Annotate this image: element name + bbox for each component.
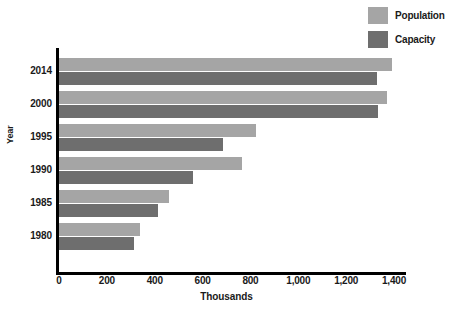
y-tick-1980: 1980: [30, 231, 52, 241]
bar-population-1995: [59, 124, 256, 137]
x-tick-1400: 1,400: [382, 276, 406, 286]
legend-item-population: Population: [368, 7, 445, 24]
bar-capacity-1985: [59, 204, 158, 217]
bar-population-2000: [59, 91, 387, 104]
bar-population-1980: [59, 223, 140, 236]
bar-capacity-2000: [59, 105, 378, 118]
bar-capacity-2014: [59, 72, 377, 85]
legend-label-capacity: Capacity: [395, 35, 435, 45]
x-tick-600: 600: [195, 276, 211, 286]
x-tick-400: 400: [147, 276, 163, 286]
legend-label-population: Population: [395, 11, 445, 21]
x-tick-1200: 1,200: [334, 276, 358, 286]
bar-capacity-1980: [59, 237, 134, 250]
bar-population-1985: [59, 190, 169, 203]
bar-chart: Population Capacity Year 201420001995199…: [0, 0, 453, 313]
x-axis-title: Thousands: [0, 292, 453, 302]
x-tick-800: 800: [242, 276, 258, 286]
x-tick-0: 0: [56, 276, 61, 286]
y-tick-1985: 1985: [30, 198, 52, 208]
x-axis-tick-labels: 02004006008001,0001,2001,400: [59, 276, 406, 290]
bar-population-2014: [59, 58, 392, 71]
y-tick-2000: 2000: [30, 99, 52, 109]
y-axis-tick-labels: 201420001995199019851980: [0, 48, 57, 272]
y-tick-1995: 1995: [30, 132, 52, 142]
legend-swatch-capacity: [368, 31, 388, 48]
x-tick-200: 200: [99, 276, 115, 286]
y-tick-2014: 2014: [30, 66, 52, 76]
bar-population-1990: [59, 157, 242, 170]
x-tick-1000: 1,000: [286, 276, 310, 286]
bar-capacity-1990: [59, 171, 193, 184]
bars-layer: [59, 48, 406, 272]
bar-capacity-1995: [59, 138, 223, 151]
y-tick-1990: 1990: [30, 165, 52, 175]
legend-swatch-population: [368, 7, 388, 24]
plot-area: [59, 48, 406, 272]
chart-legend: Population Capacity: [368, 7, 445, 48]
legend-item-capacity: Capacity: [368, 31, 445, 48]
